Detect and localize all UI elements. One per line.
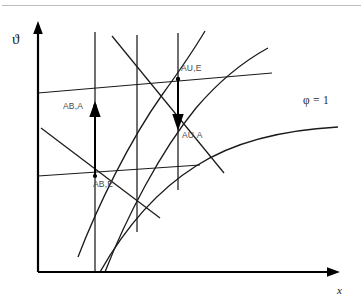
ab-arrow-head-up: [89, 101, 100, 117]
saturation-curve-label: φ = 1: [303, 95, 329, 107]
process-arrow-au: [172, 77, 183, 131]
diagram-svg: [0, 0, 363, 308]
isotherm-line-upper: [38, 73, 272, 93]
state-dot-ab-a: [93, 104, 97, 108]
state-dot-au-e: [176, 77, 180, 81]
diagram-canvas: ϑ x φ = 1 AB,A AB,E AU,E AU,A: [0, 0, 363, 308]
y-axis-arrowhead: [33, 21, 43, 34]
y-axis-label: ϑ: [12, 32, 19, 47]
state-dot-ab-e: [93, 174, 97, 178]
state-label-ab-e: AB,E: [93, 180, 113, 189]
isohume-curve-group: [78, 31, 268, 272]
x-axis-arrowhead: [327, 267, 340, 277]
state-label-ab-a: AB,A: [63, 102, 83, 111]
humidity-curve-right: [105, 48, 268, 272]
state-label-au-e: AU,E: [181, 64, 202, 73]
state-label-au-a: AU,A: [182, 131, 203, 140]
enthalpy-line-upper: [112, 36, 224, 173]
x-axis-label: x: [337, 285, 342, 296]
